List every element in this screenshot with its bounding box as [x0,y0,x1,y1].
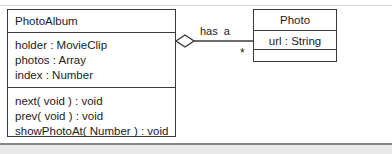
top-divider-rule [0,5,392,6]
class-name-photoalbum: PhotoAlbum [15,14,175,29]
uml-diagram-canvas: PhotoAlbum holder : MovieClip photos : A… [0,0,392,154]
attribute-row: index : Number [15,68,175,83]
class-name-compartment: PhotoAlbum [8,10,175,32]
class-operations-compartment [254,49,336,61]
attribute-row: photos : Array [15,53,175,68]
class-attributes-compartment: url : String [254,30,336,49]
attribute-row: holder : MovieClip [15,38,175,53]
association-multiplicity-target: * [240,46,245,60]
bottom-band-divider [0,143,392,145]
class-operations-compartment: next( void ) : void prev( void ) : void … [8,87,175,139]
aggregation-diamond-icon [176,35,194,47]
class-attributes-compartment: holder : MovieClip photos : Array index … [8,32,175,87]
uml-class-photo[interactable]: Photo url : String [253,9,337,62]
operation-row: next( void ) : void [15,94,175,109]
uml-class-photoalbum[interactable]: PhotoAlbum holder : MovieClip photos : A… [7,9,176,137]
association-label: has a [200,25,230,37]
class-name-compartment: Photo [254,10,336,30]
attribute-row: url : String [254,34,336,49]
operation-row: prev( void ) : void [15,109,175,124]
class-name-photo: Photo [254,13,336,28]
operation-row: showPhotoAt( Number ) : void [15,124,175,139]
